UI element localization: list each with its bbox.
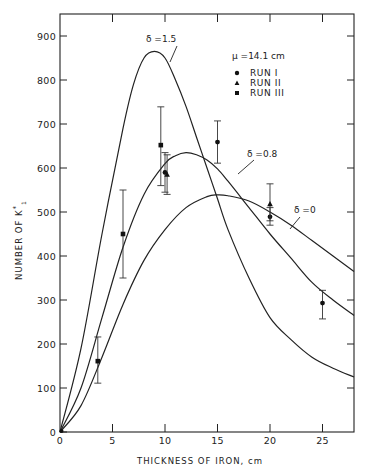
- data-point-triangle: [267, 201, 273, 206]
- chart: 0100200300400500600700800900 0510152025 …: [0, 0, 368, 473]
- y-tick-label: 200: [37, 339, 56, 350]
- x-axis-title: THICKNESS OF IRON, cm: [136, 456, 263, 466]
- annotation-delta-1.5: δ =1.5: [146, 34, 176, 44]
- y-tick-label: 800: [37, 75, 56, 86]
- data-point-square: [159, 143, 164, 148]
- legend-marker-circle: [235, 71, 239, 75]
- legend: RUN I RUN II RUN III: [235, 68, 285, 98]
- y-axis-title-group: NUMBER OF K*1: [12, 200, 27, 280]
- annotation-delta-0: δ =0: [294, 205, 316, 215]
- y-tick-label: 500: [37, 207, 56, 218]
- data-point-circle: [320, 301, 325, 306]
- y-tick-label: 400: [37, 251, 56, 262]
- data-point-circle: [215, 140, 220, 145]
- x-tick-label: 5: [109, 435, 115, 446]
- y-tick-label: 900: [37, 31, 56, 42]
- annotation-arrow-delta-0: [290, 217, 300, 229]
- origin-point: [60, 429, 64, 433]
- curve-δ=0.8: [60, 153, 354, 432]
- x-tick-label: 20: [264, 435, 277, 446]
- legend-label-run-3: RUN III: [250, 88, 285, 98]
- annotation-arrow-delta-0.8: [238, 160, 254, 174]
- data-point-square: [121, 232, 126, 237]
- x-tick-label: 15: [211, 435, 224, 446]
- legend-label-run-1: RUN I: [250, 68, 278, 78]
- y-tick-label: 700: [37, 119, 56, 130]
- y-tick-label: 0: [50, 427, 56, 438]
- theory-curves: [60, 51, 354, 432]
- legend-marker-triangle: [235, 81, 240, 86]
- y-tick-label: 600: [37, 163, 56, 174]
- data-points: [60, 107, 327, 433]
- y-tick-label: 300: [37, 295, 56, 306]
- x-tick-label: 0: [57, 435, 63, 446]
- curve-δ=0: [60, 195, 354, 432]
- data-point-square: [96, 359, 101, 364]
- annotations: δ =1.5 μ =14.1 cm δ =0.8 δ =0: [146, 34, 316, 229]
- y-axis-title: NUMBER OF K*1: [12, 200, 27, 280]
- legend-label-run-2: RUN II: [250, 78, 281, 88]
- annotation-mu: μ =14.1 cm: [232, 51, 285, 61]
- legend-marker-square: [235, 91, 239, 95]
- y-tick-label: 100: [37, 383, 56, 394]
- curve-δ=1.5: [60, 51, 354, 432]
- annotation-arrow-delta-1.5: [170, 46, 177, 62]
- x-tick-label: 25: [316, 435, 329, 446]
- x-tick-label: 10: [159, 435, 172, 446]
- annotation-delta-0.8: δ =0.8: [247, 149, 277, 159]
